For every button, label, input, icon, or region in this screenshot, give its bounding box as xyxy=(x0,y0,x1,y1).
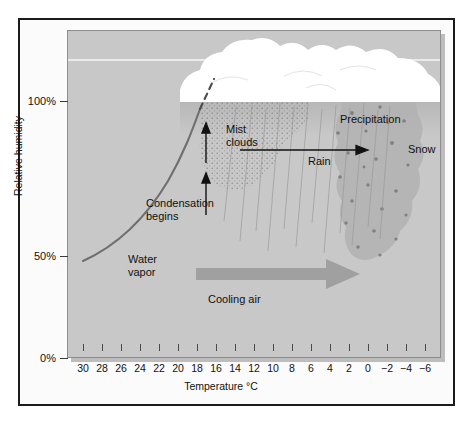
x-tick-label-2: 2 xyxy=(339,362,359,374)
label-cooling-air: Cooling air xyxy=(208,293,261,306)
x-tick-label-10: 10 xyxy=(263,362,283,374)
x-tick-label-4: 4 xyxy=(320,362,340,374)
x-tick-label-16: 16 xyxy=(206,362,226,374)
x-tick-mark-minus4 xyxy=(406,344,407,351)
x-tick-label-minus6: −6 xyxy=(415,362,435,374)
x-tick-label-28: 28 xyxy=(92,362,112,374)
label-condensation-line1: Condensation xyxy=(146,197,214,209)
x-tick-label-minus2: −2 xyxy=(377,362,397,374)
saturation-curve xyxy=(68,31,441,358)
plot-panel: Water vapor Condensation begins Mist clo… xyxy=(67,30,441,358)
y-tick-label-100: 100% xyxy=(12,95,56,107)
x-tick-mark-6 xyxy=(311,344,312,351)
x-tick-label-20: 20 xyxy=(168,362,188,374)
label-water-vapor-line2: vapor xyxy=(128,266,156,278)
x-tick-mark-30 xyxy=(83,344,84,351)
x-tick-mark-18 xyxy=(197,344,198,351)
label-mist-line2: clouds xyxy=(226,136,258,148)
x-tick-mark-12 xyxy=(254,344,255,351)
x-tick-mark-0 xyxy=(368,344,369,351)
label-snow: Snow xyxy=(408,143,436,156)
x-tick-label-8: 8 xyxy=(282,362,302,374)
x-tick-mark-2 xyxy=(349,344,350,351)
cooling-air-arrow xyxy=(196,259,360,289)
y-tick-mark-0 xyxy=(60,358,68,359)
x-tick-mark-8 xyxy=(292,344,293,351)
label-condensation-begins: Condensation begins xyxy=(146,197,214,222)
x-tick-mark-4 xyxy=(330,344,331,351)
x-tick-label-12: 12 xyxy=(244,362,264,374)
x-tick-label-26: 26 xyxy=(111,362,131,374)
x-tick-label-14: 14 xyxy=(225,362,245,374)
x-tick-mark-14 xyxy=(235,344,236,351)
weather-diagram-figure: Water vapor Condensation begins Mist clo… xyxy=(0,0,472,423)
label-mist-clouds: Mist clouds xyxy=(226,123,258,148)
x-tick-mark-10 xyxy=(273,344,274,351)
x-tick-label-6: 6 xyxy=(301,362,321,374)
label-condensation-line2: begins xyxy=(146,210,178,222)
x-tick-label-18: 18 xyxy=(187,362,207,374)
x-tick-mark-22 xyxy=(159,344,160,351)
label-water-vapor-line1: Water xyxy=(128,253,157,265)
x-tick-mark-20 xyxy=(178,344,179,351)
x-tick-mark-minus6 xyxy=(425,344,426,351)
label-water-vapor: Water vapor xyxy=(128,253,157,278)
x-tick-label-0: 0 xyxy=(358,362,378,374)
x-tick-mark-28 xyxy=(102,344,103,351)
x-tick-label-24: 24 xyxy=(130,362,150,374)
x-tick-mark-16 xyxy=(216,344,217,351)
label-mist-line1: Mist xyxy=(226,123,246,135)
x-tick-label-22: 22 xyxy=(149,362,169,374)
rain-direction-arrow xyxy=(240,143,370,157)
x-tick-label-minus4: −4 xyxy=(396,362,416,374)
x-tick-mark-24 xyxy=(140,344,141,351)
label-precipitation: Precipitation xyxy=(340,113,401,126)
x-axis-title: Temperature °C xyxy=(0,380,442,392)
y-tick-mark-50 xyxy=(60,256,68,257)
y-tick-mark-100 xyxy=(60,101,68,102)
y-tick-label-50: 50% xyxy=(12,250,56,262)
y-tick-label-0: 0% xyxy=(12,352,56,364)
x-tick-label-30: 30 xyxy=(73,362,93,374)
label-rain: Rain xyxy=(308,155,331,168)
x-tick-mark-26 xyxy=(121,344,122,351)
x-tick-mark-minus2 xyxy=(387,344,388,351)
